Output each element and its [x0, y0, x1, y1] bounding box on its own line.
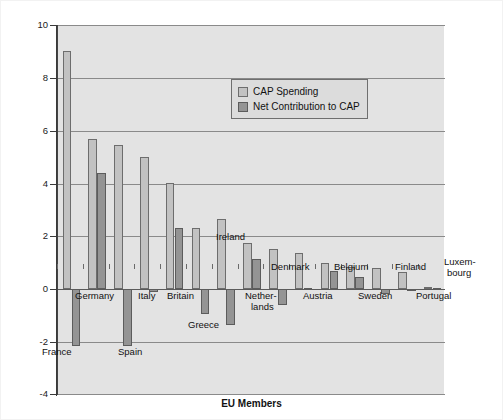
bar-italy-series0: [140, 157, 149, 289]
bar-germany-series0: [88, 139, 97, 289]
group-tick-belgium: [315, 264, 316, 269]
chart-figure: 10 8 6 4 2 0 -2 -4 Euros bn. EU Members …: [0, 0, 503, 420]
bar-sweden-series1: [355, 277, 364, 289]
category-label-britain: Britain: [167, 291, 194, 302]
x-axis-title: EU Members: [0, 398, 503, 409]
category-label-italy: Italy: [138, 291, 155, 302]
bar-greece-series1: [201, 289, 210, 314]
y-axis-line: [56, 25, 57, 396]
y-tick-label-8: 8: [18, 73, 48, 83]
y-tick-10: [50, 25, 56, 26]
category-label-denmark: Denmark: [271, 262, 310, 273]
y-tick-2: [50, 236, 56, 237]
category-label-ireland: Ireland: [216, 232, 245, 243]
legend-label-cap-spending: CAP Spending: [253, 87, 318, 97]
bar-finland-series0: [372, 268, 381, 289]
category-label-netherlands: Nether-: [245, 291, 277, 302]
y-tick-label-6: 6: [18, 126, 48, 136]
category-label-germany: Germany: [75, 291, 114, 302]
legend-label-net-contribution: Net Contribution to CAP: [253, 102, 360, 112]
bar-belgium-series1: [330, 271, 339, 289]
legend-swatch-icon-cap-spending: [238, 87, 248, 97]
group-tick-netherlands: [238, 264, 239, 269]
category-label-austria: Austria: [303, 291, 333, 302]
group-tick-britain: [160, 264, 161, 269]
category-label-spain: Spain: [118, 347, 142, 358]
y-tick-minus2: [50, 342, 56, 343]
y-tick-4: [50, 184, 56, 185]
legend-swatch-icon-net-contribution: [238, 102, 248, 112]
legend-item-net-contribution: Net Contribution to CAP: [238, 102, 360, 112]
group-tick-ireland: [212, 264, 213, 269]
group-tick-italy: [134, 264, 135, 269]
y-tick-label-4: 4: [18, 179, 48, 189]
bar-greece-series0: [192, 228, 201, 289]
group-tick-germany: [83, 264, 84, 269]
category-label-greece: Greece: [188, 320, 219, 331]
y-tick-minus4: [50, 394, 56, 395]
bar-france-series0: [63, 51, 72, 289]
group-tick-france: [57, 264, 58, 269]
legend-item-cap-spending: CAP Spending: [238, 87, 360, 97]
bar-ireland-series0: [217, 219, 226, 289]
category-label-portugal: Portugal: [416, 291, 451, 302]
bar-germany-series1: [97, 173, 106, 289]
gridline-minus4: [58, 394, 445, 395]
y-tick-label-2: 2: [18, 231, 48, 241]
category-label-finland: Finland: [395, 262, 426, 273]
y-tick-6: [50, 131, 56, 132]
category-label-france: France: [42, 347, 72, 358]
category-label-netherlands-2: lands: [251, 302, 274, 313]
gridline-10: [58, 25, 445, 26]
category-label-sweden: Sweden: [358, 291, 392, 302]
y-tick-8: [50, 78, 56, 79]
category-label-luxembourg: Luxem-: [444, 257, 476, 268]
group-tick-greece: [186, 264, 187, 269]
bar-ireland-series1: [226, 289, 235, 325]
bar-belgium-series0: [321, 263, 330, 289]
bar-britain-series0: [166, 183, 175, 289]
group-tick-denmark: [263, 264, 264, 269]
bar-netherlands-series1: [252, 259, 261, 289]
bar-netherlands-series0: [243, 243, 252, 289]
gridline-6: [58, 131, 445, 132]
y-tick-label-10: 10: [18, 20, 48, 30]
bar-portugal-series0: [398, 272, 407, 289]
gridline-minus2: [58, 342, 445, 343]
y-tick-0: [50, 289, 56, 290]
group-tick-spain: [109, 264, 110, 269]
bar-spain-series0: [114, 145, 123, 289]
category-label-luxembourg-2: bourg: [447, 268, 471, 279]
bar-denmark-series1: [278, 289, 287, 305]
y-tick-label-0: 0: [18, 284, 48, 294]
group-tick-portugal: [392, 264, 393, 269]
bar-britain-series1: [175, 228, 184, 289]
bar-spain-series1: [123, 289, 132, 346]
bar-luxembourg-series0: [424, 287, 433, 289]
category-label-belgium: Belgium: [334, 262, 368, 273]
chart-legend: CAP Spending Net Contribution to CAP: [231, 79, 368, 119]
bar-portugal-series1: [407, 289, 416, 291]
